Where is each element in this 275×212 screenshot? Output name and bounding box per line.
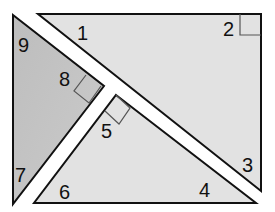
angle-label-8: 8 [59,68,70,90]
angle-label-4: 4 [199,179,210,201]
angle-label-7: 7 [15,164,26,186]
angle-label-6: 6 [59,181,70,203]
angle-label-3: 3 [242,154,253,176]
angle-label-5: 5 [101,120,112,142]
angle-label-2: 2 [223,18,234,40]
angle-label-9: 9 [18,34,29,56]
angle-label-1: 1 [77,22,88,44]
triangle-angles-diagram: 1 2 3 4 5 6 7 8 9 [0,0,275,212]
